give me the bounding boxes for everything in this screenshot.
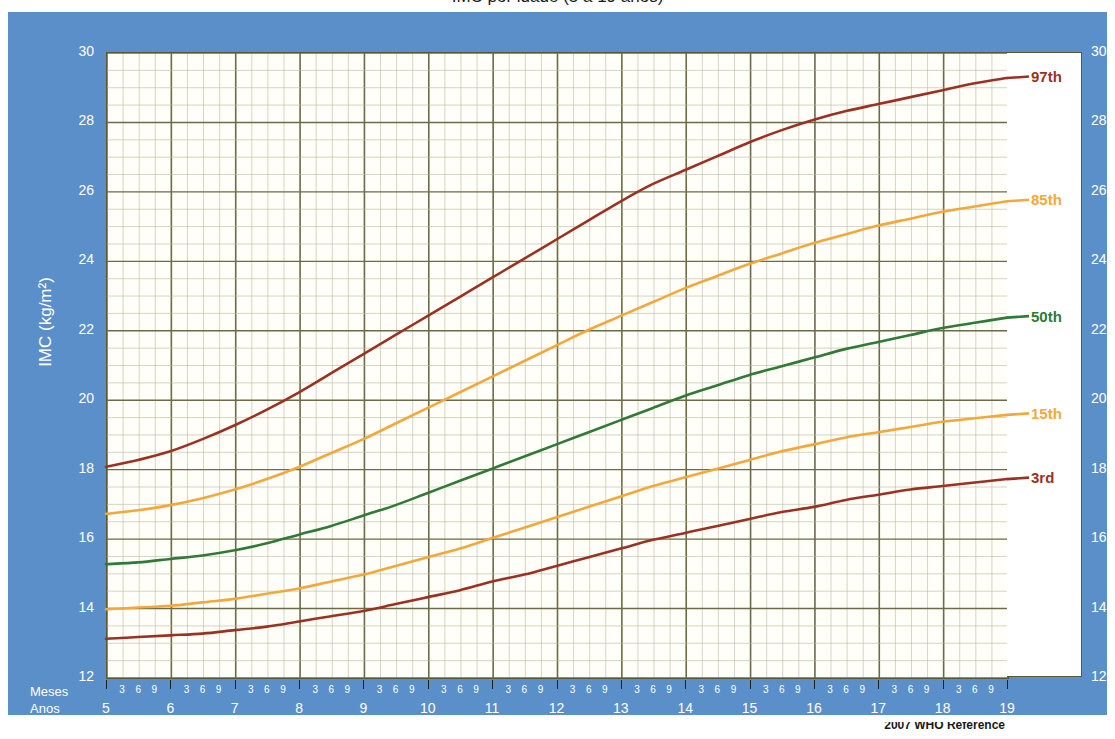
year-tick-mark-5 [106,680,107,689]
growth-chart-page: IMC por idade (5 a 19 anos) IMC (kg/m²) … [0,0,1115,739]
month-tick-16-9: 9 [855,684,869,695]
y-tick-right-28: 28 [1091,112,1115,128]
month-tick-10-9: 9 [469,684,483,695]
percentile-label-97th: 97th [1031,68,1062,85]
y-tick-left-24: 24 [60,251,94,267]
month-tick-17-9: 9 [920,684,934,695]
month-tick-5-3: 3 [115,684,129,695]
month-tick-13-6: 6 [646,684,660,695]
month-tick-17-3: 3 [887,684,901,695]
month-tick-10-3: 3 [437,684,451,695]
month-tick-12-3: 3 [566,684,580,695]
month-tick-8-9: 9 [340,684,354,695]
y-tick-right-20: 20 [1091,390,1115,406]
y-tick-left-30: 30 [60,43,94,59]
year-tick-mark-6 [170,680,171,689]
month-tick-18-3: 3 [952,684,966,695]
year-tick-mark-14 [685,680,686,689]
y-axis-title: IMC (kg/m²) [36,222,56,422]
years-row-label: Anos [30,701,60,716]
label-gutter [1007,52,1082,677]
year-label-8: 8 [284,700,314,716]
months-row-label: Meses [30,684,68,699]
month-tick-15-3: 3 [759,684,773,695]
month-tick-12-9: 9 [598,684,612,695]
year-label-17: 17 [863,700,893,716]
y-tick-left-12: 12 [60,668,94,684]
year-tick-mark-16 [814,680,815,689]
year-tick-mark-11 [492,680,493,689]
y-tick-right-22: 22 [1091,321,1115,337]
month-tick-11-6: 6 [517,684,531,695]
month-tick-18-6: 6 [968,684,982,695]
year-tick-mark-8 [299,680,300,689]
y-tick-left-26: 26 [60,182,94,198]
footer-note: 2007 WHO Reference [884,722,1005,732]
y-tick-left-16: 16 [60,529,94,545]
y-tick-left-28: 28 [60,112,94,128]
y-tick-left-20: 20 [60,390,94,406]
y-tick-right-18: 18 [1091,460,1115,476]
year-label-13: 13 [606,700,636,716]
year-tick-mark-18 [943,680,944,689]
y-tick-right-14: 14 [1091,599,1115,615]
year-label-12: 12 [542,700,572,716]
y-tick-right-16: 16 [1091,529,1115,545]
year-label-7: 7 [220,700,250,716]
grid-lines [107,53,1008,678]
year-label-6: 6 [155,700,185,716]
year-tick-mark-12 [557,680,558,689]
chart-title-strip: IMC por idade (5 a 19 anos) [0,0,1115,12]
month-tick-7-9: 9 [276,684,290,695]
year-label-19: 19 [992,700,1022,716]
plot-area [106,52,1009,679]
month-tick-12-6: 6 [582,684,596,695]
year-label-14: 14 [670,700,700,716]
month-tick-9-6: 6 [389,684,403,695]
month-tick-6-9: 9 [212,684,226,695]
month-tick-6-3: 3 [179,684,193,695]
month-tick-18-9: 9 [984,684,998,695]
year-tick-mark-19 [1007,680,1008,689]
year-label-16: 16 [799,700,829,716]
year-tick-mark-13 [621,680,622,689]
month-tick-13-9: 9 [662,684,676,695]
year-label-5: 5 [91,700,121,716]
month-tick-8-3: 3 [308,684,322,695]
year-tick-mark-10 [428,680,429,689]
year-tick-mark-9 [363,680,364,689]
percentile-label-3rd: 3rd [1031,469,1054,486]
month-tick-13-3: 3 [630,684,644,695]
month-tick-11-9: 9 [533,684,547,695]
month-tick-7-3: 3 [244,684,258,695]
month-tick-14-3: 3 [694,684,708,695]
year-label-9: 9 [348,700,378,716]
month-tick-5-9: 9 [147,684,161,695]
month-tick-15-9: 9 [791,684,805,695]
month-tick-14-6: 6 [710,684,724,695]
page-title: IMC por idade (5 a 19 anos) [0,0,1115,7]
year-tick-mark-17 [878,680,879,689]
y-tick-right-30: 30 [1091,43,1115,59]
year-label-10: 10 [413,700,443,716]
y-tick-right-26: 26 [1091,182,1115,198]
year-label-11: 11 [477,700,507,716]
month-tick-16-3: 3 [823,684,837,695]
percentile-label-85th: 85th [1031,191,1062,208]
month-tick-9-9: 9 [405,684,419,695]
y-tick-left-14: 14 [60,599,94,615]
year-tick-mark-7 [235,680,236,689]
month-tick-7-6: 6 [260,684,274,695]
month-tick-6-6: 6 [196,684,210,695]
percentile-label-15th: 15th [1031,405,1062,422]
year-label-15: 15 [735,700,765,716]
month-tick-8-6: 6 [324,684,338,695]
month-tick-9-3: 3 [373,684,387,695]
year-label-18: 18 [928,700,958,716]
month-tick-10-6: 6 [453,684,467,695]
month-tick-17-6: 6 [903,684,917,695]
chart-blue-panel: IMC (kg/m²) 12141618202224262830 1214161… [8,12,1107,715]
month-tick-15-6: 6 [775,684,789,695]
month-tick-11-3: 3 [501,684,515,695]
month-tick-14-9: 9 [726,684,740,695]
